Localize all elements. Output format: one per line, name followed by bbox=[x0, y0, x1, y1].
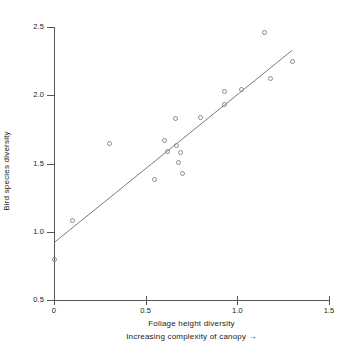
x-axis-tick-label: 1.5 bbox=[309, 307, 349, 315]
x-axis-tick bbox=[54, 296, 55, 305]
data-point bbox=[268, 76, 273, 81]
data-point bbox=[222, 102, 227, 107]
x-axis-tick bbox=[329, 296, 330, 305]
scatter-plot-figure: 0.51.01.52.02.5 Bird species diversity 0… bbox=[0, 0, 350, 347]
data-point bbox=[180, 171, 185, 176]
data-point bbox=[290, 59, 295, 64]
x-axis-line bbox=[54, 300, 329, 301]
data-point bbox=[239, 87, 244, 92]
x-axis-subtitle: Increasing complexity of canopy → bbox=[54, 332, 329, 342]
data-point bbox=[222, 89, 227, 94]
data-point bbox=[70, 218, 75, 223]
y-axis-title: Bird species diversity bbox=[0, 34, 14, 308]
y-axis-tick-label: 2.5 bbox=[4, 23, 44, 31]
y-axis-tick bbox=[47, 164, 55, 165]
regression-line bbox=[0, 0, 350, 347]
y-axis-tick bbox=[47, 232, 55, 233]
x-axis-tick bbox=[146, 296, 147, 305]
y-axis-tick bbox=[47, 27, 55, 28]
x-axis-tick bbox=[237, 296, 238, 305]
x-axis-title: Foliage height diversity bbox=[54, 319, 329, 329]
data-point bbox=[178, 150, 183, 155]
y-axis-tick bbox=[47, 95, 55, 96]
x-axis-tick-label: 0.5 bbox=[126, 307, 166, 315]
data-point bbox=[176, 160, 181, 165]
data-point bbox=[198, 115, 203, 120]
plot-area bbox=[0, 0, 350, 347]
data-point bbox=[107, 141, 112, 146]
x-axis-tick-label: 0 bbox=[34, 307, 74, 315]
data-point bbox=[174, 143, 179, 148]
data-point bbox=[152, 177, 157, 182]
data-point bbox=[173, 116, 178, 121]
data-point bbox=[165, 149, 170, 154]
data-point bbox=[262, 30, 267, 35]
data-point bbox=[162, 138, 167, 143]
x-axis-tick-label: 1.0 bbox=[217, 307, 257, 315]
